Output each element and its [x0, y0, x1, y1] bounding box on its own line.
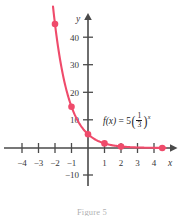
- function-argument: (x): [106, 116, 117, 126]
- exponent: x: [148, 113, 151, 120]
- data-point-x--2: [52, 21, 59, 28]
- x-tick-label--1: −1: [67, 158, 77, 168]
- x-tick-label--4: −4: [17, 158, 27, 168]
- x-tick-label-2: 2: [119, 158, 124, 168]
- x-tick-label-4: 4: [152, 158, 157, 168]
- y-tick-label-40: 40: [70, 33, 80, 43]
- data-points-group: [52, 21, 166, 152]
- exponential-decay-graph: −4 −3 −2 −1 1 2 3 4 x 40 30 20 10 −10 y: [0, 0, 184, 216]
- data-point-x-2: [118, 143, 125, 150]
- close-paren: ): [143, 116, 147, 127]
- equals-sign: =: [119, 116, 124, 126]
- function-equation-label: f(x) = 5(13)x: [103, 112, 150, 128]
- x-tick-label--3: −3: [34, 158, 44, 168]
- y-axis-label: y: [75, 14, 81, 24]
- y-axis-arrow-icon: [84, 13, 92, 20]
- figure-caption: Figure 5: [0, 207, 184, 216]
- x-axis-label: x: [167, 158, 173, 168]
- y-tick-label--10: −10: [65, 170, 80, 180]
- x-tick-label--2: −2: [50, 158, 60, 168]
- open-paren: (: [132, 116, 136, 127]
- data-point-x--1: [68, 103, 75, 110]
- fraction-one-third: 13: [136, 112, 142, 128]
- y-tick-label-30: 30: [70, 60, 80, 70]
- fraction-numerator: 1: [136, 112, 142, 120]
- data-point-endpoint: [159, 145, 166, 152]
- x-axis-arrow-icon: [170, 144, 178, 152]
- x-tick-label-1: 1: [102, 158, 107, 168]
- figure-container: −4 −3 −2 −1 1 2 3 4 x 40 30 20 10 −10 y: [0, 0, 184, 216]
- y-tick-label-20: 20: [70, 88, 80, 98]
- x-tick-label-3: 3: [135, 158, 140, 168]
- data-point-x-1: [101, 140, 108, 147]
- fraction-denominator: 3: [136, 120, 142, 129]
- coefficient: 5: [126, 116, 131, 126]
- data-point-x-0: [85, 131, 92, 138]
